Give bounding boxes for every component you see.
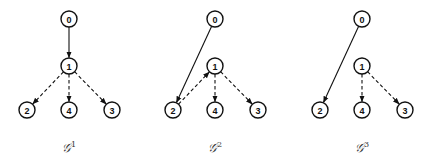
node-label: 0 [212,15,217,25]
edge-1-to-3 [221,72,252,104]
graph-1: 01243𝒢1 [19,11,120,155]
node-label: 3 [402,106,407,116]
node-label: 1 [66,62,71,72]
node-label: 3 [255,106,260,116]
graph-label: 𝒢2 [208,140,222,155]
node-4: 4 [207,102,223,118]
node-1: 1 [207,58,223,74]
graph-2: 01243𝒢2 [165,11,266,155]
node-0: 0 [61,11,77,27]
node-label: 4 [212,106,217,116]
graph-label-superscript: 3 [364,140,369,149]
node-label: 2 [24,106,29,116]
node-1: 1 [354,58,370,74]
graph-diagram: 01243𝒢101243𝒢201243𝒢3 [0,0,434,160]
node-1: 1 [61,58,77,74]
node-3: 3 [104,102,120,118]
node-label: 4 [66,106,71,116]
node-3: 3 [397,102,413,118]
node-label: 1 [212,62,217,72]
graph-label: 𝒢3 [355,140,369,155]
node-label: 2 [170,106,175,116]
edge-1-to-3 [368,72,399,104]
edge-0-to-2 [324,26,359,102]
node-2: 2 [312,102,328,118]
graph-label-superscript: 1 [71,140,76,149]
node-label: 3 [109,106,114,116]
node-4: 4 [61,102,77,118]
graph-label-superscript: 2 [217,140,222,149]
graph-label: 𝒢1 [62,140,76,155]
node-label: 1 [359,62,364,72]
node-label: 2 [317,106,322,116]
edge-1-to-3 [75,72,106,104]
graph-3: 01243𝒢3 [312,11,413,155]
node-2: 2 [19,102,35,118]
node-label: 0 [66,15,71,25]
node-label: 0 [359,15,364,25]
edge-0-to-2 [177,26,212,102]
node-0: 0 [207,11,223,27]
edge-1-to-2 [33,72,64,104]
node-4: 4 [354,102,370,118]
node-2: 2 [165,102,181,118]
node-0: 0 [354,11,370,27]
node-3: 3 [250,102,266,118]
node-label: 4 [359,106,364,116]
